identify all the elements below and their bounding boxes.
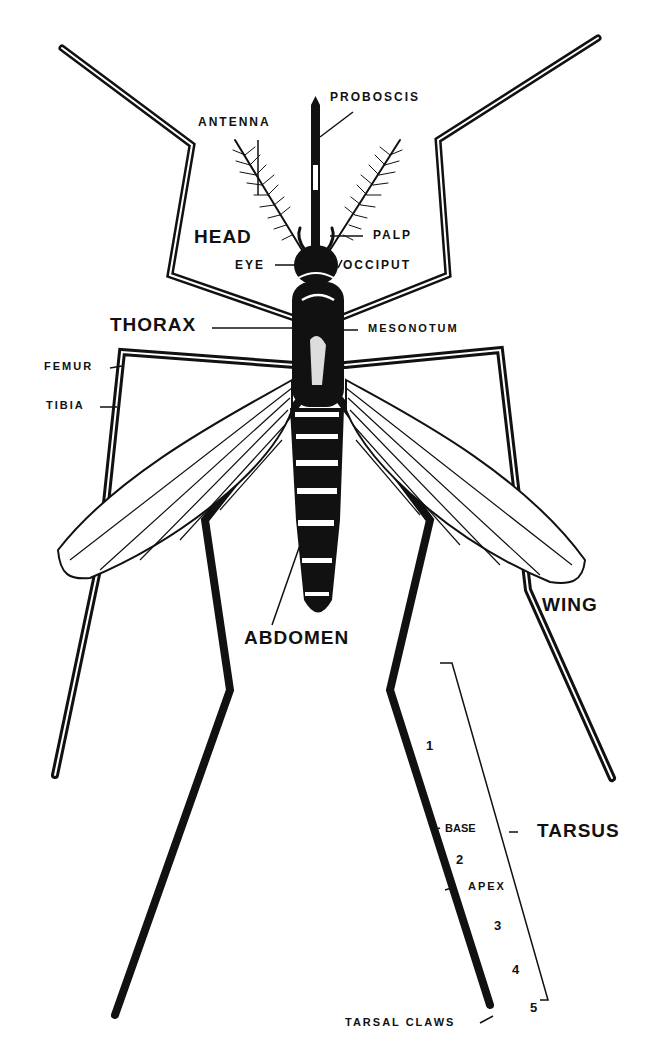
label-proboscis: PROBOSCIS: [330, 90, 420, 104]
front-leg-right: [340, 38, 598, 318]
label-mesonotum: MESONOTUM: [368, 322, 459, 334]
label-tarsus: TARSUS: [537, 820, 620, 842]
label-base: BASE: [445, 822, 476, 834]
label-tarsal-claws: TARSAL CLAWS: [345, 1016, 455, 1028]
label-palp: PALP: [373, 228, 412, 242]
label-femur: FEMUR: [44, 360, 93, 372]
label-thorax: THORAX: [110, 314, 196, 336]
label-head: HEAD: [194, 226, 252, 248]
label-eye: EYE: [235, 258, 265, 272]
wing-left: [58, 380, 292, 578]
label-wing: WING: [542, 594, 598, 616]
tarsal-segment-4: 4: [512, 962, 521, 977]
label-abdomen: ABDOMEN: [244, 627, 349, 649]
tarsal-segment-2: 2: [456, 852, 465, 867]
mosquito-drawing: [0, 0, 660, 1056]
wing-right: [346, 380, 585, 583]
tarsal-segment-1: 1: [426, 738, 435, 753]
label-occiput: OCCIPUT: [343, 258, 411, 272]
head: [294, 245, 338, 285]
tarsal-segment-3: 3: [494, 918, 503, 933]
label-tibia: TIBIA: [46, 399, 85, 411]
label-antenna: ANTENNA: [198, 115, 271, 129]
tarsal-segment-5: 5: [530, 1000, 539, 1015]
label-apex: APEX: [468, 880, 506, 892]
